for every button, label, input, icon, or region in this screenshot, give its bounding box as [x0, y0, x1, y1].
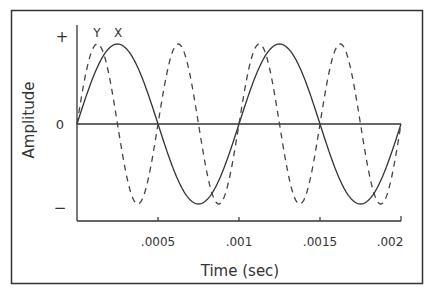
- x-ticks: [158, 216, 401, 221]
- series-y-label: Y: [92, 26, 101, 40]
- x-tick-label: .0015: [303, 235, 337, 249]
- x-tick-label: .001: [226, 235, 253, 249]
- y-axis-title: Amplitude: [20, 82, 38, 159]
- chart-frame: [12, 11, 423, 284]
- x-tick-label: .0005: [141, 235, 175, 249]
- series-x-label: X: [114, 26, 122, 40]
- chart-canvas: + 0 − Y X .0005 .001 .0015 .002 Time (se…: [0, 0, 432, 303]
- y-tick-plus: +: [56, 28, 69, 46]
- x-tick-label: .002: [377, 235, 404, 249]
- y-tick-minus: −: [54, 199, 67, 217]
- y-tick-zero: 0: [56, 117, 64, 132]
- x-axis-title: Time (sec): [200, 262, 279, 280]
